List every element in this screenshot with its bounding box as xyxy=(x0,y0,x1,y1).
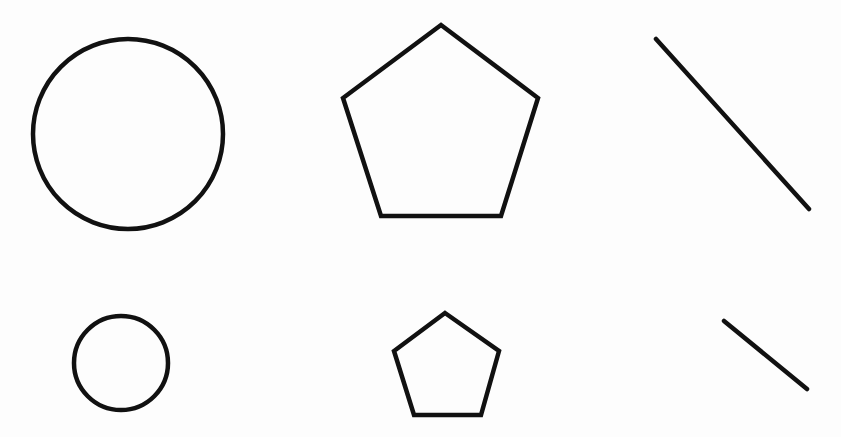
large-pentagon xyxy=(343,25,538,216)
small-pentagon xyxy=(394,313,499,415)
small-diagonal-line xyxy=(724,321,807,389)
large-shapes-row xyxy=(33,25,809,229)
shapes-canvas xyxy=(0,0,841,437)
shapes-svg xyxy=(0,0,841,437)
large-diagonal-line xyxy=(656,39,809,209)
large-circle xyxy=(33,39,223,229)
small-shapes-row xyxy=(74,313,807,415)
small-circle xyxy=(74,316,168,410)
